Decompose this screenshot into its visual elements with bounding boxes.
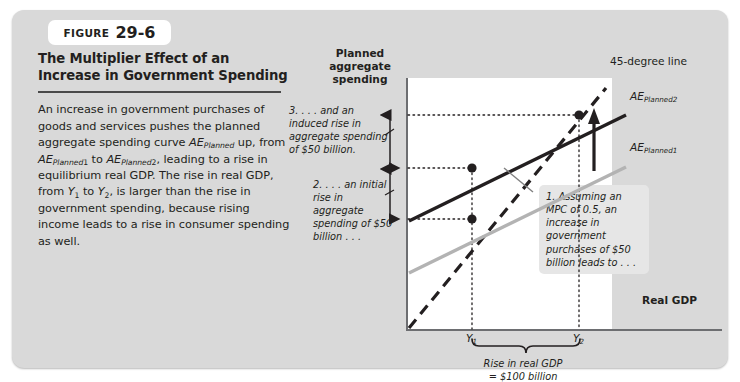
arrowhead-government-spending-shift — [588, 108, 600, 124]
point-ae2-at-y1 — [467, 163, 476, 172]
figure-title: The Multiplier Effect of an Increase in … — [38, 50, 294, 84]
point-initial-equilibrium — [467, 214, 476, 223]
figure-description: An increase in government purchases of g… — [38, 102, 294, 250]
figure-number-tab: FIGURE 29-6 — [48, 20, 171, 45]
figure-text-column: The Multiplier Effect of an Increase in … — [38, 50, 294, 250]
series-ae-planned-1 — [409, 167, 626, 273]
point-new-equilibrium — [574, 110, 583, 119]
chart-graphics — [290, 40, 726, 368]
bracket-line-2: = $100 billion — [489, 371, 558, 382]
figure-tab-label: FIGURE — [64, 27, 110, 39]
gdp-rise-brace — [472, 339, 580, 353]
figure-page: FIGURE 29-6 The Multiplier Effect of an … — [0, 0, 740, 382]
title-divider — [38, 91, 281, 93]
chart-container: Planned aggregate spending Real GDP Y1 Y… — [290, 40, 726, 368]
figure-tab-number: 29-6 — [115, 23, 155, 42]
